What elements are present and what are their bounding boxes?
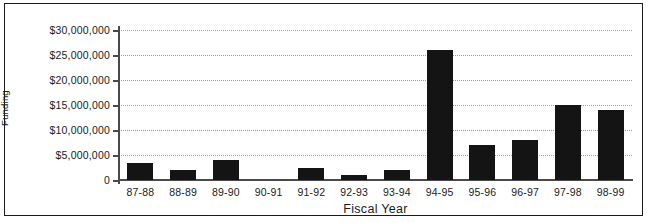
plot-area: $30,000,000$25,000,000$20,000,000$15,000… xyxy=(119,30,632,180)
x-axis-tick-label: 93-94 xyxy=(376,186,419,198)
y-axis-tick-label: $10,000,000 xyxy=(49,124,110,136)
gridline xyxy=(119,80,632,81)
x-axis-tick-label: 98-99 xyxy=(589,186,632,198)
x-axis-tick-label: 95-96 xyxy=(461,186,504,198)
y-axis-tick xyxy=(113,80,120,82)
gridline xyxy=(119,30,632,31)
y-axis-tick xyxy=(113,155,120,157)
x-axis-tick-label: 88-89 xyxy=(162,186,205,198)
y-axis-tick xyxy=(113,130,120,132)
y-axis-tick-label: $20,000,000 xyxy=(49,74,110,86)
chart-frame: Capital Improvements Funding $30,000,000… xyxy=(4,3,643,216)
bar xyxy=(555,105,581,180)
x-axis-tick-label: 87-88 xyxy=(119,186,162,198)
y-axis-tick-label: 0 xyxy=(104,174,110,186)
x-axis-tick-label: 96-97 xyxy=(504,186,547,198)
y-axis-tick-label: $5,000,000 xyxy=(55,149,110,161)
bar xyxy=(341,175,367,180)
bar xyxy=(469,145,495,180)
bar xyxy=(512,140,538,180)
bar xyxy=(598,110,624,180)
gridline xyxy=(119,55,632,56)
y-axis-tick-label: $30,000,000 xyxy=(49,24,110,36)
y-axis-title: Capital Improvements Funding xyxy=(0,42,10,174)
x-axis-tick-label: 97-98 xyxy=(547,186,590,198)
bar xyxy=(170,170,196,180)
x-axis-tick-label: 90-91 xyxy=(247,186,290,198)
bar xyxy=(213,160,239,180)
x-axis-tick-label: 92-93 xyxy=(333,186,376,198)
y-axis-tick-label: $15,000,000 xyxy=(49,99,110,111)
bar xyxy=(298,168,324,181)
x-axis-tick-label: 94-95 xyxy=(418,186,461,198)
x-axis-title: Fiscal Year xyxy=(119,202,632,216)
x-axis-tick-label: 89-90 xyxy=(205,186,248,198)
y-axis-tick xyxy=(113,55,120,57)
bar xyxy=(127,163,153,181)
y-axis-title-line2: Funding xyxy=(0,42,10,174)
x-axis-tick-label: 91-92 xyxy=(290,186,333,198)
y-axis-tick xyxy=(113,105,120,107)
y-axis-tick xyxy=(113,30,120,32)
bar xyxy=(427,50,453,180)
y-axis-tick xyxy=(113,180,120,182)
bar xyxy=(384,170,410,180)
y-axis-tick-label: $25,000,000 xyxy=(49,49,110,61)
